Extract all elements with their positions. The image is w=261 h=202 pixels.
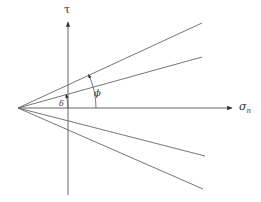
upper-envelope-line-delta bbox=[18, 57, 202, 108]
sigma-symbol: σ bbox=[239, 100, 247, 113]
phi-angle-label: ϕ bbox=[94, 88, 101, 98]
failure-envelope-diagram bbox=[0, 0, 261, 202]
upper-envelope-line-phi bbox=[18, 23, 202, 108]
tau-axis-label: τ bbox=[64, 4, 70, 15]
sigma-n-axis-label: σn bbox=[239, 101, 251, 115]
sigma-subscript: n bbox=[247, 107, 252, 115]
delta-angle-label: δ bbox=[59, 100, 64, 108]
